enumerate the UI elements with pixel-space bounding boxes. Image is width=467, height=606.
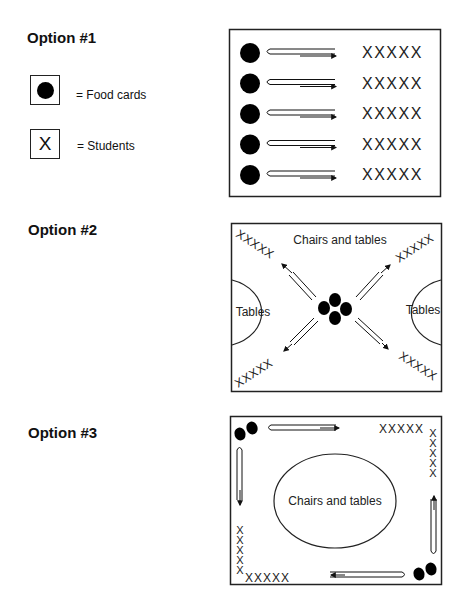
svg-text:XXXXX: XXXXX [362, 44, 423, 61]
diagrams-canvas: XXXXX XXXXX XXXXX XXXXX [0, 0, 467, 606]
svg-text:Chairs and tables: Chairs and tables [288, 494, 381, 508]
svg-text:XXXXX: XXXXX [233, 227, 276, 262]
svg-text:XXXXX: XXXXX [379, 422, 424, 436]
diagram-option-1: XXXXX XXXXX XXXXX XXXXX [230, 30, 441, 197]
svg-text:XXXXX: XXXXX [245, 571, 290, 585]
svg-text:Tables: Tables [236, 305, 271, 319]
svg-text:XXXXX: XXXXX [393, 231, 436, 266]
svg-text:XXXXX: XXXXX [396, 349, 439, 384]
diagram-option-3: Chairs and tables XXXXX XXXXX XXXXX XXXX… [231, 417, 442, 586]
cropped-caption-text [0, 600, 467, 606]
svg-text:XXXXX: XXXXX [362, 136, 423, 153]
svg-text:Tables: Tables [406, 303, 441, 317]
svg-text:XXXXX: XXXXX [362, 105, 423, 122]
diagram-option-2: Tables Tables Chairs and tables XXXXX XX… [232, 224, 442, 392]
svg-text:X: X [236, 564, 244, 576]
svg-text:XXXXX: XXXXX [232, 356, 275, 391]
svg-text:X: X [429, 467, 437, 479]
food-card-lines: XXXXX XXXXX XXXXX XXXXX [240, 43, 423, 185]
svg-text:XXXXX: XXXXX [362, 166, 423, 183]
svg-text:XXXXX: XXXXX [362, 75, 423, 92]
svg-text:Chairs and tables: Chairs and tables [293, 233, 386, 247]
